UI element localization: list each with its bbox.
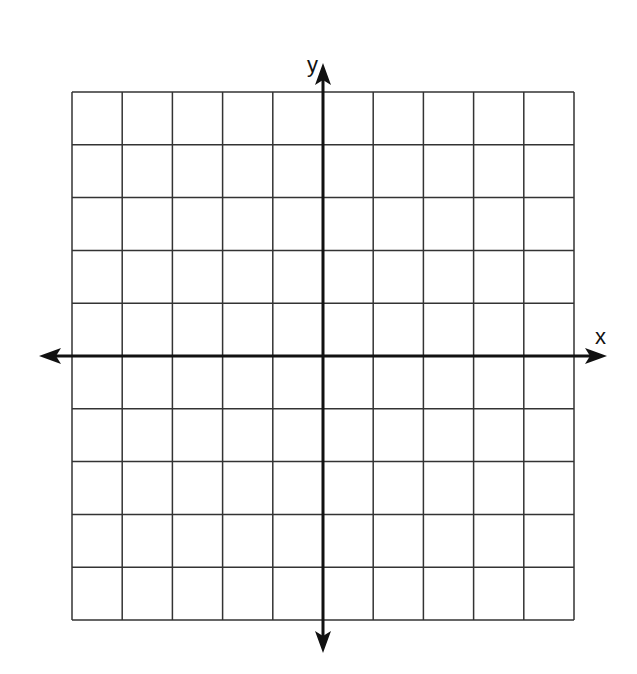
coordinate-plane: x y (0, 0, 637, 674)
axes (39, 63, 607, 653)
y-axis-label: y (307, 52, 318, 77)
x-axis-label: x (595, 324, 606, 349)
